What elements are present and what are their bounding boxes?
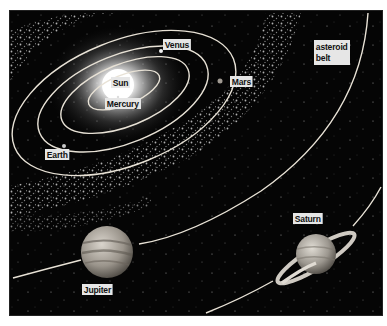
saturn-label: Saturn [293,213,323,224]
mercury-label: Mercury [105,98,141,109]
jupiter-label: Jupiter [82,284,113,295]
jupiter-icon [81,226,133,278]
earth-icon [62,144,66,148]
sun-label: Sun [111,77,130,88]
earth-label: Earth [45,149,70,160]
mars-label: Mars [230,76,253,87]
asteroid-belt-label: asteroid belt [314,40,350,65]
solar-system-diagram: Sun Mercury Venus Mars Earth asteroid be… [9,10,383,316]
venus-label: Venus [163,39,191,50]
mars-icon [218,79,223,84]
